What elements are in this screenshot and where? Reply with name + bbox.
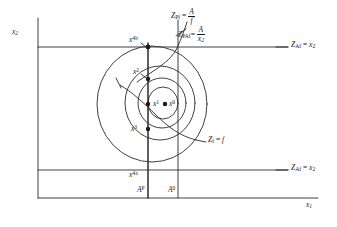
z-f-curve-tick [116, 78, 121, 88]
label-point-x2: x2 [133, 68, 139, 76]
point-x2 [146, 77, 150, 81]
point-x0 [163, 102, 167, 106]
label-point-x1: x1 [153, 100, 159, 108]
diagram-canvas: x2 x1 ZPf = A f ZPAf= A x2 ZAf = x2 ZAf … [0, 0, 337, 227]
y-axis-label: x2 [12, 28, 18, 37]
z-pf-fraction: A f [188, 8, 195, 24]
x-axis-label: x1 [306, 201, 312, 210]
point-x3 [146, 127, 150, 131]
z-pf-annotation: ZPf = A f [171, 8, 195, 24]
label-point-x4b: x4b [129, 36, 138, 44]
z-f-leader [196, 140, 206, 142]
point-x4b [146, 45, 151, 50]
outer-contour [97, 46, 207, 162]
z-paf-annotation: ZPAf= A x2 [178, 26, 205, 44]
label-a0-line: A0 [168, 186, 175, 194]
point-x1 [146, 102, 150, 106]
z-af-upper-annotation: ZAf = x2 [291, 41, 315, 50]
z-paf-fraction: A x2 [197, 26, 205, 44]
z-f-annotation: Zf = f [208, 136, 224, 145]
label-point-x4a: x4a [129, 171, 138, 179]
label-point-x0: x0 [169, 100, 175, 108]
z-af-lower-annotation: ZAf = x2 [291, 164, 315, 173]
label-ap-line: AP [137, 186, 145, 194]
label-point-x3: x3 [131, 125, 137, 133]
